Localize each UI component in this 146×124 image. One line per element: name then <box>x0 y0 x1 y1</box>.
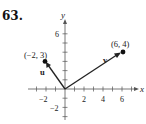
point-label-u: (−2, 3) <box>24 50 47 60</box>
x-axis <box>28 87 139 92</box>
point-label-v: (6, 4) <box>111 39 130 49</box>
point-v-head <box>121 50 126 55</box>
vector-label-u: u <box>40 67 45 77</box>
x-tick-label-neg2: −2 <box>39 95 48 104</box>
vector-u <box>43 59 65 89</box>
x-axis-label: x <box>139 84 144 94</box>
vector-v <box>65 50 125 89</box>
y-tick-label-neg2: −2 <box>50 104 59 113</box>
y-axis-label: y <box>60 10 65 20</box>
vector-diagram: y x −2 2 4 6 6 −2 (−2, 3) u (6, 4) v <box>0 0 146 124</box>
vector-label-v: v <box>103 55 108 65</box>
x-tick-label-2: 2 <box>82 95 86 104</box>
x-tick-label-6: 6 <box>120 95 124 104</box>
y-tick-label-6: 6 <box>55 30 59 39</box>
y-axis <box>63 19 68 120</box>
x-tick-label-4: 4 <box>101 95 105 104</box>
